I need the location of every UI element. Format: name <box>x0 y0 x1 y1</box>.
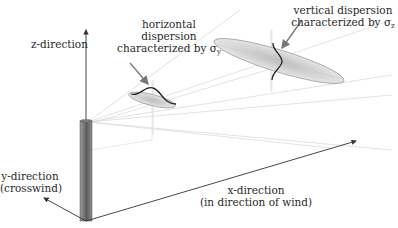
sigma-y-subscript: y <box>217 48 221 56</box>
x-direction-label: x-direction (in direction of wind) <box>196 184 316 208</box>
z-direction-text: z-direction <box>31 38 88 50</box>
vertical-dispersion-label: vertical dispersion characterized by σz <box>288 4 398 32</box>
horizontal-dispersion-pointer <box>130 63 148 84</box>
horizontal-line2: dispersion <box>104 30 234 42</box>
y-axis <box>44 198 86 221</box>
vertical-line2: characterized by σz <box>288 16 398 32</box>
y-line1: y-direction <box>0 170 60 182</box>
y-line2: (crosswind) <box>0 182 60 194</box>
horizontal-line1: horizontal <box>104 18 234 30</box>
vertical-sigma-text: characterized by σ <box>291 16 391 28</box>
z-direction-label: z-direction <box>31 38 88 50</box>
horizontal-sigma-text: characterized by σ <box>117 42 217 54</box>
horizontal-dispersion-label: horizontal dispersion characterized by σ… <box>104 18 234 58</box>
x-line2: (in direction of wind) <box>196 196 316 208</box>
sigma-z-subscript: z <box>391 22 395 30</box>
x-axis <box>86 141 356 221</box>
smokestack <box>80 119 92 221</box>
x-line1: x-direction <box>196 184 316 196</box>
vertical-line1: vertical dispersion <box>288 4 398 16</box>
horizontal-line3: characterized by σy <box>104 42 234 58</box>
y-direction-label: y-direction (crosswind) <box>0 170 60 194</box>
